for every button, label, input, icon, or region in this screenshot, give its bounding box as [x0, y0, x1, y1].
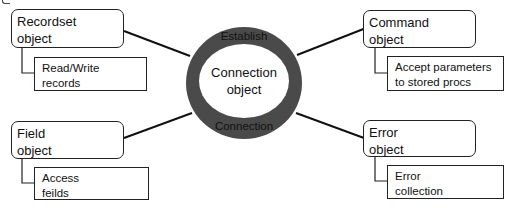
- elbow-recordset: [22, 48, 34, 73]
- field-sub-line1: Access: [42, 171, 141, 186]
- error-sub-line2: collection: [395, 184, 496, 199]
- connection-ring-label: Connection: [194, 120, 294, 132]
- recordset-sub-line2: records: [42, 76, 139, 91]
- connection-title-line1: Connection: [199, 64, 289, 81]
- field-sub-line2: feilds: [42, 186, 141, 201]
- error-object-box: Error object: [363, 120, 476, 157]
- command-title: Command: [369, 14, 470, 31]
- error-subtitle: object: [369, 141, 470, 158]
- elbow-command: [375, 48, 387, 73]
- connection-object-label: Connection object: [199, 64, 289, 98]
- elbow-error: [375, 157, 387, 181]
- field-object-box: Field object: [11, 121, 124, 159]
- error-title: Error: [369, 124, 470, 141]
- elbow-field: [22, 158, 34, 183]
- recordset-object-box: Recordset object: [11, 9, 124, 48]
- command-sub-line1: Accept parameters: [395, 60, 496, 75]
- field-sub-box: Access feilds: [34, 167, 149, 200]
- recordset-sub-box: Read/Write records: [34, 57, 147, 91]
- command-subtitle: object: [369, 31, 470, 48]
- recordset-title: Recordset: [17, 13, 118, 30]
- command-object-box: Command object: [363, 10, 476, 48]
- error-sub-line1: Error: [395, 169, 496, 184]
- field-subtitle: object: [17, 142, 118, 159]
- connector-error: [296, 113, 364, 138]
- connector-command: [297, 28, 366, 55]
- establish-label: Establish: [194, 30, 294, 42]
- connector-field: [124, 113, 192, 138]
- command-sub-line2: to stored procs: [395, 75, 496, 90]
- connection-title-line2: object: [199, 81, 289, 98]
- recordset-sub-line1: Read/Write: [42, 61, 139, 76]
- connector-recordset: [124, 31, 190, 56]
- recordset-subtitle: object: [17, 30, 118, 47]
- field-title: Field: [17, 125, 118, 142]
- error-sub-box: Error collection: [387, 165, 504, 199]
- command-sub-box: Accept parameters to stored procs: [387, 56, 504, 91]
